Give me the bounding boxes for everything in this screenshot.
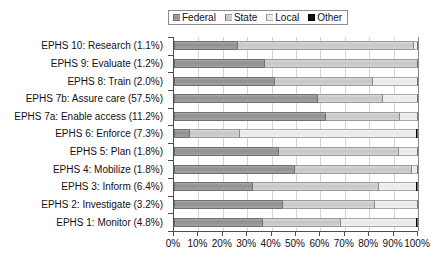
x-axis-tick — [222, 232, 223, 236]
stacked-bar — [174, 59, 418, 68]
bar-row — [174, 196, 418, 214]
stacked-bar — [174, 41, 418, 50]
legend-label: Other — [317, 13, 342, 23]
bar-segment-federal — [174, 147, 278, 156]
bar-segment-state — [278, 147, 399, 156]
bar-rows — [174, 37, 418, 231]
stacked-bar-chart: FederalStateLocalOther EPHS 10: Research… — [0, 0, 437, 261]
x-axis-tick — [295, 232, 296, 236]
bar-row — [174, 37, 418, 55]
legend-swatch-local-icon — [266, 14, 273, 21]
bar-segment-local — [239, 129, 416, 138]
y-axis-labels: EPHS 10: Research (1.1%)EPHS 9: Evaluate… — [0, 37, 167, 231]
bar-segment-federal — [174, 165, 294, 174]
stacked-bar — [174, 112, 418, 121]
bar-segment-local — [382, 94, 418, 103]
stacked-bar — [174, 147, 418, 156]
x-axis-tick — [344, 232, 345, 236]
x-axis-label: 20% — [212, 238, 232, 250]
y-axis-tick — [168, 143, 173, 144]
bar-row — [174, 55, 418, 73]
bar-row — [174, 125, 418, 143]
bar-segment-state — [274, 77, 372, 86]
legend-swatch-other-icon — [308, 14, 315, 21]
legend-swatch-state-icon — [225, 14, 232, 21]
bar-row — [174, 90, 418, 108]
y-axis-tick — [168, 160, 173, 161]
bar-segment-state — [294, 165, 411, 174]
x-axis-tick — [393, 232, 394, 236]
bar-segment-other — [416, 218, 418, 227]
stacked-bar — [174, 182, 418, 191]
bar-row — [174, 178, 418, 196]
stacked-bar — [174, 129, 418, 138]
x-axis-label: 100% — [404, 238, 430, 250]
bar-segment-federal — [174, 94, 317, 103]
x-axis-label: 50% — [285, 238, 305, 250]
y-axis-tick — [168, 178, 173, 179]
y-axis-label: EPHS 1: Monitor (4.8%) — [0, 213, 167, 231]
y-axis-tick — [168, 37, 173, 38]
bar-segment-local — [374, 200, 418, 209]
y-axis-label: EPHS 3: Inform (6.4%) — [0, 178, 167, 196]
legend-swatch-federal-icon — [173, 14, 180, 21]
x-axis-label: 90% — [383, 238, 403, 250]
bar-segment-federal — [174, 59, 264, 68]
bar-segment-state — [325, 112, 399, 121]
y-axis-label: EPHS 5: Plan (1.8%) — [0, 143, 167, 161]
y-axis-label: EPHS 10: Research (1.1%) — [0, 37, 167, 55]
bar-segment-local — [372, 77, 418, 86]
bar-segment-local — [340, 218, 416, 227]
bar-segment-federal — [174, 112, 325, 121]
bar-segment-state — [262, 218, 340, 227]
bar-segment-state — [237, 41, 413, 50]
x-axis-tick — [368, 232, 369, 236]
bar-row — [174, 213, 418, 231]
x-axis-label: 80% — [358, 238, 378, 250]
chart-legend: FederalStateLocalOther — [168, 10, 348, 25]
legend-item-other: Other — [308, 13, 342, 23]
x-axis-tick — [319, 232, 320, 236]
stacked-bar — [174, 77, 418, 86]
y-axis-label: EPHS 8: Train (2.0%) — [0, 72, 167, 90]
legend-item-local: Local — [266, 13, 299, 23]
y-axis-tick — [168, 196, 173, 197]
bar-segment-state — [252, 182, 378, 191]
bar-segment-federal — [174, 200, 282, 209]
y-axis-tick — [168, 213, 173, 214]
y-axis-tick — [168, 231, 173, 232]
x-axis-label: 70% — [334, 238, 354, 250]
y-axis-tick — [168, 108, 173, 109]
bar-segment-federal — [174, 41, 237, 50]
x-axis-label: 0% — [166, 238, 180, 250]
stacked-bar — [174, 94, 418, 103]
bar-segment-federal — [174, 77, 274, 86]
x-axis-label: 30% — [236, 238, 256, 250]
stacked-bar — [174, 200, 418, 209]
plot-area — [173, 37, 419, 231]
bar-segment-local — [413, 41, 418, 50]
bar-segment-state — [282, 200, 374, 209]
bar-segment-other — [416, 129, 418, 138]
y-axis-tick — [168, 55, 173, 56]
x-axis-tick — [271, 232, 272, 236]
y-axis-tick — [168, 72, 173, 73]
legend-label: Local — [275, 13, 299, 23]
x-axis-label: 40% — [261, 238, 281, 250]
stacked-bar — [174, 218, 418, 227]
bar-segment-federal — [174, 218, 262, 227]
legend-label: Federal — [182, 13, 216, 23]
bar-segment-local — [411, 165, 418, 174]
bar-segment-other — [416, 182, 418, 191]
y-axis-label: EPHS 4: Mobilize (1.8%) — [0, 160, 167, 178]
legend-item-federal: Federal — [173, 13, 216, 23]
x-axis-tick — [197, 232, 198, 236]
bar-segment-federal — [174, 129, 189, 138]
bar-row — [174, 143, 418, 161]
y-axis-tick — [168, 125, 173, 126]
stacked-bar — [174, 165, 418, 174]
bar-row — [174, 160, 418, 178]
y-axis-tick — [168, 90, 173, 91]
bar-segment-local — [378, 182, 416, 191]
bar-segment-local — [399, 112, 418, 121]
